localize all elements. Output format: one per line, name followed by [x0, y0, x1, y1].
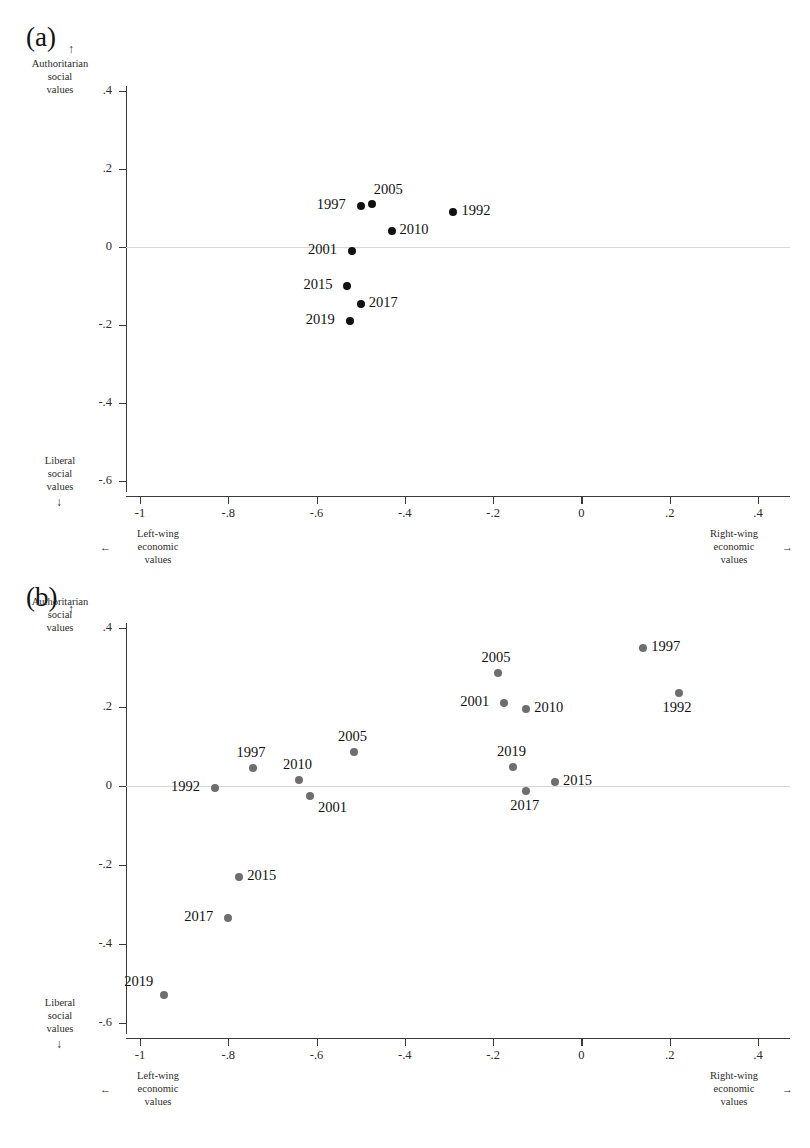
x-axis-left-arrow-icon: ←	[100, 1083, 111, 1095]
data-point-label-2005: 2005	[374, 181, 403, 198]
y-tick-label: -.4	[78, 395, 112, 410]
data-point-label-2010: 2010	[534, 699, 563, 716]
panel-label-a: (a)	[26, 22, 56, 53]
data-point-2017	[357, 300, 365, 308]
x-axis-left-caption: Left-wingeconomicvalues	[112, 1070, 204, 1108]
y-tick-label: -.6	[78, 473, 112, 488]
x-tick-label: -.6	[297, 506, 337, 521]
data-point-2010	[295, 776, 303, 784]
data-point-label-2015: 2015	[563, 772, 592, 789]
y-tick	[119, 786, 126, 787]
x-axis-right-caption-line: economic	[688, 541, 780, 554]
y-axis-down-arrow-icon: ↓	[56, 1037, 62, 1052]
x-tick	[670, 497, 671, 504]
data-point-label-2005: 2005	[338, 728, 367, 745]
x-tick-label: 0	[561, 1048, 601, 1063]
data-point-label-2017: 2017	[184, 908, 213, 925]
data-point-1992	[211, 784, 219, 792]
y-axis-line	[126, 86, 127, 492]
x-axis-left-caption-line: Left-wing	[112, 1070, 204, 1083]
x-tick	[317, 497, 318, 504]
panel-a	[0, 0, 810, 570]
y-tick	[119, 628, 126, 629]
x-tick-label: .4	[738, 1048, 778, 1063]
y-axis-bottom-caption-line: Liberal	[8, 455, 112, 468]
data-point-2005	[368, 200, 376, 208]
y-tick-label: .4	[78, 83, 112, 98]
x-tick	[581, 1039, 582, 1046]
data-point-1997	[639, 644, 647, 652]
x-axis-right-arrow-icon: →	[782, 1083, 793, 1095]
y-axis-top-caption-line: Authoritarian	[8, 596, 112, 609]
data-point-1992	[675, 689, 683, 697]
x-tick	[228, 497, 229, 504]
data-point-label-2017: 2017	[369, 294, 398, 311]
y-tick	[119, 707, 126, 708]
x-tick	[581, 497, 582, 504]
data-point-label-1992: 1992	[663, 699, 692, 716]
x-axis-left-caption-line: economic	[112, 541, 204, 554]
x-axis-left-arrow-icon: ←	[100, 541, 111, 553]
data-point-label-2019: 2019	[497, 743, 526, 760]
y-tick-label: .2	[78, 699, 112, 714]
x-tick	[493, 1039, 494, 1046]
data-point-1997	[249, 764, 257, 772]
x-axis-right-caption-line: Right-wing	[688, 528, 780, 541]
data-point-label-2019: 2019	[124, 973, 153, 990]
y-tick-label: -.6	[78, 1015, 112, 1030]
data-point-2010	[388, 227, 396, 235]
data-point-label-1997: 1997	[237, 744, 266, 761]
x-tick	[140, 497, 141, 504]
data-point-label-2017: 2017	[510, 797, 539, 814]
x-tick-label: -.4	[385, 506, 425, 521]
y-tick-label: -.2	[78, 857, 112, 872]
data-point-label-2005: 2005	[482, 649, 511, 666]
data-point-label-1992: 1992	[171, 778, 200, 795]
x-tick-label: -.6	[297, 1048, 337, 1063]
y-axis-down-arrow-icon: ↓	[56, 495, 62, 510]
x-axis-right-caption-line: economic	[688, 1083, 780, 1096]
x-tick	[670, 1039, 671, 1046]
x-tick	[228, 1039, 229, 1046]
x-tick	[758, 1039, 759, 1046]
y-axis-top-caption-line: Authoritarian	[8, 58, 112, 71]
x-tick-label: .2	[650, 506, 690, 521]
data-point-label-2010: 2010	[283, 756, 312, 773]
data-point-2005	[494, 669, 502, 677]
x-tick	[405, 497, 406, 504]
y-tick-label: .2	[78, 161, 112, 176]
x-axis-right-caption-line: values	[688, 1096, 780, 1109]
y-tick	[119, 865, 126, 866]
x-axis-right-caption-line: values	[688, 554, 780, 567]
x-tick	[317, 1039, 318, 1046]
data-point-label-2019: 2019	[306, 311, 335, 328]
y-axis-top-caption-line: social	[8, 71, 112, 84]
x-tick	[140, 1039, 141, 1046]
x-tick-label: .2	[650, 1048, 690, 1063]
x-tick-label: -1	[120, 506, 160, 521]
y-tick	[119, 1023, 126, 1024]
data-point-label-2010: 2010	[400, 221, 429, 238]
data-point-1997	[357, 202, 365, 210]
x-axis-right-caption: Right-wingeconomicvalues	[688, 528, 780, 566]
x-axis-left-caption: Left-wingeconomicvalues	[112, 528, 204, 566]
data-point-label-2001: 2001	[460, 693, 489, 710]
y-tick	[119, 169, 126, 170]
y-axis-line	[126, 623, 127, 1034]
data-point-label-2001: 2001	[308, 241, 337, 258]
data-point-2017	[522, 787, 530, 795]
x-tick	[493, 497, 494, 504]
y-tick	[119, 944, 126, 945]
data-point-2019	[346, 317, 354, 325]
x-tick	[758, 497, 759, 504]
y-axis-bottom-caption-line: Liberal	[8, 997, 112, 1010]
y-tick	[119, 91, 126, 92]
x-tick-label: -.2	[473, 506, 513, 521]
y-tick-label: -.4	[78, 936, 112, 951]
data-point-label-2001: 2001	[318, 799, 347, 816]
data-point-label-1992: 1992	[461, 202, 490, 219]
y-axis-up-arrow-icon: ↑	[68, 42, 74, 57]
x-axis-left-caption-line: economic	[112, 1083, 204, 1096]
data-point-label-1997: 1997	[651, 638, 680, 655]
x-axis-line	[126, 1038, 790, 1039]
